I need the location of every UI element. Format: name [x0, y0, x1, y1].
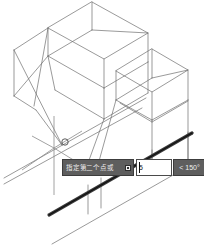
isometric-wireframe-drawing: [0, 0, 204, 250]
distance-input[interactable]: 5: [136, 159, 172, 176]
crosshair-cursor: [22, 116, 82, 195]
dynamic-input-group[interactable]: 指定第二个点或 5 < 150°: [62, 159, 204, 176]
angle-input[interactable]: < 150°: [173, 159, 204, 176]
drawing-canvas[interactable]: 指定第二个点或 5 < 150°: [0, 0, 204, 250]
dynamic-prompt-label: 指定第二个点或: [66, 164, 123, 171]
dynamic-prompt-box[interactable]: 指定第二个点或: [62, 159, 134, 176]
wireframe-geometry: [4, 2, 196, 244]
angle-input-value: < 150°: [179, 164, 200, 172]
caret-down-icon[interactable]: [125, 165, 131, 171]
text-cursor: [139, 162, 140, 173]
